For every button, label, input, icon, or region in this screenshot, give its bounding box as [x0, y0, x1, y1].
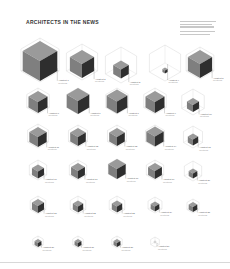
divider [0, 262, 230, 263]
architect-label: Architect 29mentions [158, 245, 170, 250]
architect-count: mentions [158, 248, 170, 251]
cube-icon [0, 0, 230, 269]
